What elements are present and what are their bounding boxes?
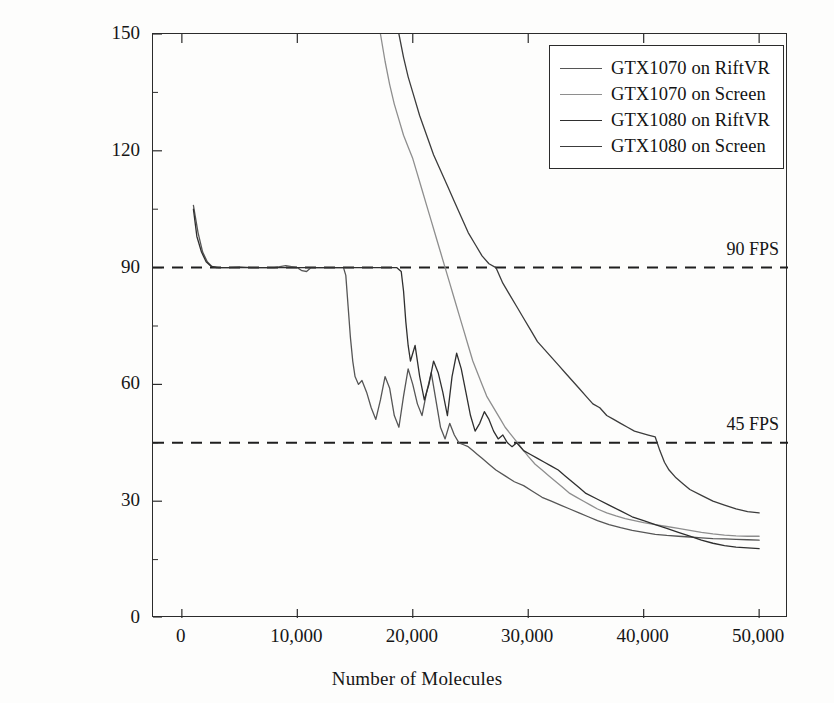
y-tick-label: 90 — [121, 256, 140, 278]
x-tick-label: 50,000 — [732, 625, 784, 647]
legend-line-swatch-icon — [560, 120, 602, 121]
y-tick-label: 60 — [121, 372, 140, 394]
legend-item-label: GTX1070 on RiftVR — [611, 58, 770, 79]
x-axis-tick-labels: 010,00020,00030,00040,00050,000 — [152, 617, 787, 657]
threshold-label-45: 45 FPS — [726, 414, 779, 435]
legend-item[interactable]: GTX1080 on Screen — [560, 133, 770, 159]
x-tick-label: 30,000 — [501, 625, 553, 647]
figure-canvas: Frames per Second (fps) 0306090120150 01… — [0, 0, 834, 703]
legend-item[interactable]: GTX1070 on RiftVR — [560, 55, 770, 81]
legend-item[interactable]: GTX1070 on Screen — [560, 81, 770, 107]
series-line-0 — [193, 205, 759, 540]
x-axis-title: Number of Molecules — [0, 668, 834, 690]
series-line-2 — [193, 209, 759, 549]
x-tick-label: 10,000 — [270, 625, 322, 647]
y-tick-label: 120 — [112, 139, 141, 161]
legend: GTX1070 on RiftVRGTX1070 on ScreenGTX108… — [549, 45, 784, 169]
legend-item-label: GTX1080 on Screen — [611, 136, 766, 157]
legend-line-swatch-icon — [560, 146, 602, 147]
legend-item-label: GTX1080 on RiftVR — [611, 110, 770, 131]
x-tick-label: 0 — [176, 625, 186, 647]
legend-item[interactable]: GTX1080 on RiftVR — [560, 107, 770, 133]
legend-item-label: GTX1070 on Screen — [611, 84, 766, 105]
y-tick-label: 30 — [121, 489, 140, 511]
y-tick-label: 150 — [112, 22, 141, 44]
legend-line-swatch-icon — [560, 94, 602, 95]
x-tick-label: 20,000 — [386, 625, 438, 647]
legend-line-swatch-icon — [560, 68, 602, 69]
y-tick-label: 0 — [131, 606, 141, 628]
x-tick-label: 40,000 — [617, 625, 669, 647]
y-axis-tick-labels: 0306090120150 — [0, 33, 148, 617]
threshold-label-90: 90 FPS — [726, 239, 779, 260]
